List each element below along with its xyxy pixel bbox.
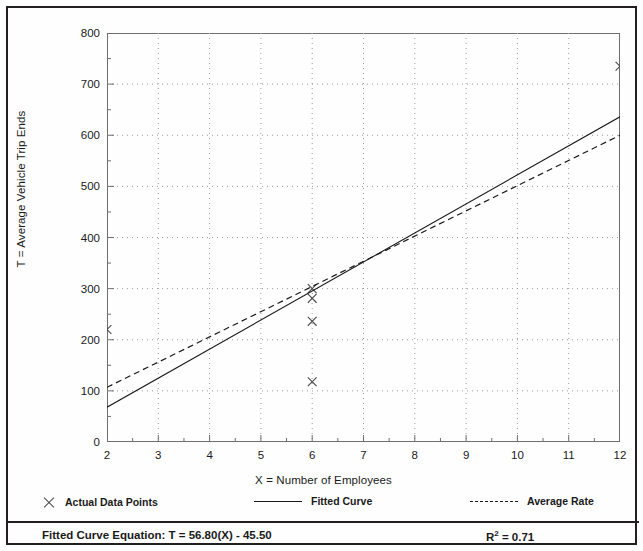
legend-entry-fitted-curve: Fitted Curve bbox=[254, 495, 372, 507]
x-tick-label: 2 bbox=[104, 449, 110, 461]
chart-canvas bbox=[107, 33, 620, 442]
y-tick-label: 0 bbox=[94, 436, 100, 448]
y-tick-label: 800 bbox=[81, 27, 100, 39]
equation-footer: Fitted Curve Equation: T = 56.80(X) - 45… bbox=[8, 521, 639, 545]
clipped-top-text bbox=[8, 3, 639, 7]
dashed-line-icon bbox=[470, 496, 518, 506]
solid-line-icon bbox=[254, 496, 302, 506]
r-squared-value: R2 = 0.71 bbox=[486, 529, 534, 543]
x-tick-label: 5 bbox=[258, 449, 264, 461]
legend-label: Actual Data Points bbox=[65, 496, 158, 508]
y-tick-label: 400 bbox=[81, 232, 100, 244]
fitted-curve-equation: Fitted Curve Equation: T = 56.80(X) - 45… bbox=[42, 529, 272, 541]
plot-area: 8007006005004003002001000 23456789101112 bbox=[107, 33, 620, 442]
y-tick-label: 300 bbox=[81, 283, 100, 295]
figure-panel: 8007006005004003002001000 23456789101112… bbox=[6, 6, 637, 545]
legend-label: Fitted Curve bbox=[311, 495, 372, 507]
x-tick-label: 4 bbox=[206, 449, 212, 461]
x-tick-label: 12 bbox=[614, 449, 627, 461]
x-tick-label: 6 bbox=[309, 449, 315, 461]
x-tick-label: 9 bbox=[463, 449, 469, 461]
legend-entry-average-rate: Average Rate bbox=[470, 495, 594, 507]
chart-legend: Actual Data Points Fitted Curve Average … bbox=[8, 495, 639, 519]
x-axis-title: X = Number of Employees bbox=[8, 474, 639, 486]
r-equals-value: = 0.71 bbox=[499, 531, 535, 543]
data-point-marker bbox=[308, 294, 317, 303]
x-tick-label: 3 bbox=[155, 449, 161, 461]
y-tick-label: 200 bbox=[81, 334, 100, 346]
y-axis-title: T = Average Vehicle Trip Ends bbox=[15, 0, 27, 424]
data-point-marker bbox=[107, 325, 111, 334]
y-tick-label: 100 bbox=[81, 385, 100, 397]
x-tick-label: 11 bbox=[563, 449, 575, 461]
x-tick-label: 8 bbox=[412, 449, 418, 461]
y-tick-label: 600 bbox=[81, 129, 100, 141]
legend-entry-actual-data-points: Actual Data Points bbox=[42, 495, 158, 509]
y-tick-label: 700 bbox=[81, 78, 100, 90]
x-tick-label: 7 bbox=[360, 449, 366, 461]
data-point-marker bbox=[616, 62, 620, 71]
x-marker-icon bbox=[42, 495, 56, 509]
x-tick-label: 10 bbox=[511, 449, 524, 461]
y-tick-label: 500 bbox=[81, 180, 100, 192]
legend-label: Average Rate bbox=[527, 495, 594, 507]
